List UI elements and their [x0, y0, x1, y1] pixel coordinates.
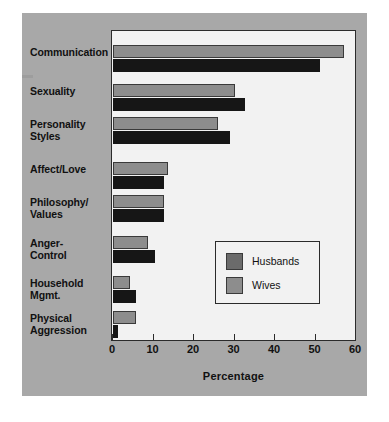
category-label-personality-styles: Personality Styles: [30, 119, 112, 142]
bar-husbands-anger-control: [113, 250, 155, 263]
legend-label-wives: Wives: [252, 279, 281, 291]
x-tick-label-60: 60: [340, 343, 370, 355]
category-label-philosophy-values: Philosophy/ Values: [30, 197, 112, 220]
category-label-physical-aggression: Physical Aggression: [30, 313, 112, 336]
x-tick-label-50: 50: [300, 343, 330, 355]
bar-husbands-sexuality: [113, 98, 245, 111]
bar-wives-philosophy-values: [113, 195, 164, 208]
bar-husbands-affect-love: [113, 176, 164, 189]
x-tick-50: [315, 334, 316, 341]
x-axis-title: Percentage: [111, 370, 356, 382]
chart-figure: Communication Sexuality Personality Styl…: [22, 13, 367, 396]
category-label-anger-control: Anger- Control: [30, 238, 112, 261]
x-tick-0: [112, 334, 113, 341]
legend-label-husbands: Husbands: [252, 255, 299, 267]
x-tick-label-0: 0: [97, 343, 127, 355]
x-tick-60: [355, 334, 356, 341]
category-axis-labels: Communication Sexuality Personality Styl…: [22, 13, 111, 396]
bar-wives-physical-aggression: [113, 311, 136, 324]
wives-swatch-icon: [226, 277, 243, 294]
chart-legend: Husbands Wives: [215, 241, 320, 304]
x-tick-20: [193, 334, 194, 341]
category-label-sexuality: Sexuality: [30, 86, 112, 98]
x-tick-10: [153, 334, 154, 341]
x-axis: 0102030405060: [111, 341, 356, 342]
category-label-household-mgmt: Household Mgmt.: [30, 278, 112, 301]
husbands-swatch-icon: [226, 253, 243, 270]
bar-wives-affect-love: [113, 162, 168, 175]
bar-husbands-physical-aggression: [113, 325, 118, 338]
category-label-communication: Communication: [30, 47, 112, 59]
bar-wives-household-mgmt: [113, 276, 130, 289]
bar-husbands-communication: [113, 59, 320, 72]
x-tick-30: [234, 334, 235, 341]
x-tick-label-10: 10: [138, 343, 168, 355]
category-label-affect-love: Affect/Love: [30, 164, 112, 176]
x-tick-label-40: 40: [259, 343, 289, 355]
bar-husbands-philosophy-values: [113, 209, 164, 222]
x-tick-40: [274, 334, 275, 341]
bar-wives-sexuality: [113, 84, 235, 97]
bar-wives-anger-control: [113, 236, 148, 249]
x-tick-label-30: 30: [219, 343, 249, 355]
x-tick-label-20: 20: [178, 343, 208, 355]
bar-husbands-personality-styles: [113, 131, 230, 144]
bar-husbands-household-mgmt: [113, 290, 136, 303]
bar-wives-communication: [113, 45, 344, 58]
bar-wives-personality-styles: [113, 117, 218, 130]
